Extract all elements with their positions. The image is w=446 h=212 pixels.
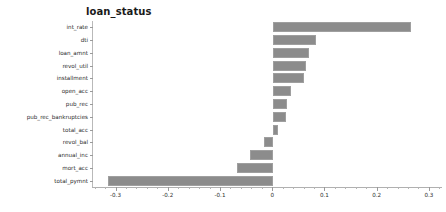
- bar-pub_rec_bankruptcies: [273, 112, 286, 122]
- x-tick-major: [377, 187, 378, 191]
- y-tick-label-annual_inc: annual_inc: [58, 152, 88, 158]
- x-tick-minor: [314, 187, 315, 189]
- y-tick-label-revol_bal: revol_bal: [63, 139, 88, 145]
- bar-open_acc: [273, 86, 291, 96]
- bar-row: [93, 161, 442, 174]
- y-tick-mark: [90, 168, 93, 169]
- x-tick-minor: [105, 187, 106, 189]
- y-tick-mark: [90, 117, 93, 118]
- x-tick-minor: [199, 187, 200, 189]
- y-tick-mark: [90, 91, 93, 92]
- y-tick-mark: [90, 27, 93, 28]
- x-tick-major: [272, 187, 273, 191]
- y-tick-label-pub_rec: pub_rec: [66, 101, 88, 107]
- bar-row: [93, 85, 442, 98]
- chart-figure: loan_status int_ratedtiloan_amntrevol_ut…: [0, 0, 446, 212]
- bar-annual_inc: [250, 150, 273, 160]
- y-tick-label-int_rate: int_rate: [67, 24, 88, 30]
- bar-mort_acc: [237, 163, 274, 173]
- bar-row: [93, 149, 442, 162]
- x-tick-minor: [157, 187, 158, 189]
- x-axis-line: [92, 187, 442, 188]
- x-tick-minor: [408, 187, 409, 189]
- x-tick-minor: [345, 187, 346, 189]
- y-tick-mark: [90, 40, 93, 41]
- x-tick-label-0.1: 0.1: [320, 192, 329, 198]
- x-tick-minor: [304, 187, 305, 189]
- x-tick-minor: [95, 187, 96, 189]
- x-tick-minor: [398, 187, 399, 189]
- y-tick-label-mort_acc: mort_acc: [62, 165, 88, 171]
- x-tick-minor: [241, 187, 242, 189]
- y-tick-mark: [90, 104, 93, 105]
- bar-row: [93, 72, 442, 85]
- bar-row: [93, 136, 442, 149]
- y-tick-mark: [90, 181, 93, 182]
- x-tick-major: [220, 187, 221, 191]
- y-tick-label-total_acc: total_acc: [63, 127, 88, 133]
- x-tick-label--0.2: -0.2: [162, 192, 173, 198]
- y-tick-label-pub_rec_bankruptcies: pub_rec_bankruptcies: [27, 114, 88, 120]
- x-tick-minor: [230, 187, 231, 189]
- x-tick-minor: [178, 187, 179, 189]
- y-tick-mark: [90, 53, 93, 54]
- y-tick-mark: [90, 142, 93, 143]
- x-tick-minor: [439, 187, 440, 189]
- bar-row: [93, 110, 442, 123]
- bar-total_pymnt: [108, 176, 273, 186]
- x-tick-minor: [335, 187, 336, 189]
- x-tick-major: [116, 187, 117, 191]
- bar-installment: [273, 73, 303, 83]
- y-tick-label-revol_util: revol_util: [62, 63, 88, 69]
- x-tick-label-0: 0: [270, 192, 274, 198]
- bar-pub_rec: [273, 99, 287, 109]
- x-tick-label--0.1: -0.1: [215, 192, 226, 198]
- bar-row: [93, 174, 442, 187]
- x-tick-minor: [210, 187, 211, 189]
- x-tick-minor: [366, 187, 367, 189]
- x-tick-label-0.3: 0.3: [424, 192, 433, 198]
- x-tick-minor: [283, 187, 284, 189]
- bar-int_rate: [273, 22, 411, 32]
- bar-loan_amnt: [273, 48, 309, 58]
- bar-dti: [273, 35, 316, 45]
- x-tick-minor: [136, 187, 137, 189]
- bar-total_acc: [273, 125, 278, 135]
- x-tick-major: [429, 187, 430, 191]
- x-tick-major: [324, 187, 325, 191]
- x-tick-minor: [387, 187, 388, 189]
- x-tick-minor: [189, 187, 190, 189]
- x-tick-minor: [262, 187, 263, 189]
- x-tick-minor: [293, 187, 294, 189]
- y-tick-mark: [90, 130, 93, 131]
- x-tick-minor: [147, 187, 148, 189]
- bar-row: [93, 47, 442, 60]
- y-tick-label-loan_amnt: loan_amnt: [59, 50, 88, 56]
- y-tick-label-installment: installment: [57, 75, 88, 81]
- bar-row: [93, 21, 442, 34]
- bar-row: [93, 98, 442, 111]
- x-tick-minor: [418, 187, 419, 189]
- x-tick-major: [168, 187, 169, 191]
- x-tick-label-0.2: 0.2: [372, 192, 381, 198]
- bar-revol_util: [273, 61, 305, 71]
- x-tick-minor: [251, 187, 252, 189]
- bar-revol_bal: [264, 137, 273, 147]
- y-tick-mark: [90, 155, 93, 156]
- x-tick-minor: [356, 187, 357, 189]
- bar-row: [93, 123, 442, 136]
- y-tick-mark: [90, 66, 93, 67]
- bar-row: [93, 59, 442, 72]
- y-tick-label-total_pymnt: total_pymnt: [54, 178, 88, 184]
- plot-area: [92, 21, 442, 187]
- bar-row: [93, 34, 442, 47]
- y-tick-label-dti: dti: [81, 37, 88, 43]
- y-tick-label-open_acc: open_acc: [62, 88, 88, 94]
- chart-title: loan_status: [86, 6, 152, 17]
- y-tick-mark: [90, 78, 93, 79]
- x-tick-label--0.3: -0.3: [110, 192, 121, 198]
- x-tick-minor: [126, 187, 127, 189]
